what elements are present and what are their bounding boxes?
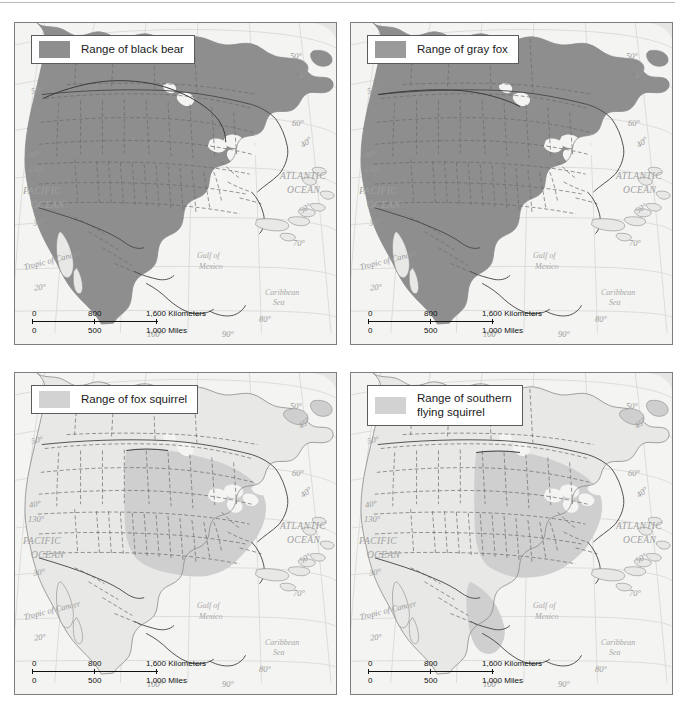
- legend-label: Range of black bear: [81, 42, 184, 56]
- scale-mi-2: 1,000 Miles: [482, 326, 523, 335]
- map-panel-gray-fox: 50°40°130°PACIFICOCEAN30°Tropic of Cance…: [350, 22, 673, 345]
- legend-southern-flying-squirrel: Range of southern flying squirrel: [367, 385, 523, 426]
- scale-bar: 08001,600 Kilometers05001,000 Miles: [368, 657, 578, 686]
- legend-gray-fox: Range of gray fox: [367, 35, 519, 64]
- scale-mi-2: 1,000 Miles: [146, 676, 187, 685]
- scale-mi-1: 500: [424, 326, 437, 335]
- map-panel-fox-squirrel: 50°40°130°PACIFICOCEAN30°Tropic of Cance…: [14, 372, 337, 695]
- scale-mi-0: 0: [368, 326, 372, 335]
- scale-km-2: 1,600 Kilometers: [146, 659, 206, 668]
- scale-bar-line: [32, 319, 158, 324]
- scale-mi-2: 1,000 Miles: [146, 326, 187, 335]
- scale-km-1: 800: [424, 309, 437, 318]
- scale-km-0: 0: [32, 309, 36, 318]
- map-panel-southern-flying-squirrel: 50°40°130°PACIFICOCEAN30°Tropic of Cance…: [350, 372, 673, 695]
- scale-bar: 08001,600 Kilometers05001,000 Miles: [32, 307, 242, 336]
- legend-fox-squirrel: Range of fox squirrel: [31, 385, 198, 414]
- scale-bar-line: [368, 669, 494, 674]
- legend-label: Range of fox squirrel: [81, 392, 187, 406]
- scale-km-2: 1,600 Kilometers: [482, 309, 542, 318]
- scale-mi-2: 1,000 Miles: [482, 676, 523, 685]
- scale-km-0: 0: [368, 659, 372, 668]
- map-panel-black-bear: 50°40°130°PACIFICOCEAN30°Tropic of Cance…: [14, 22, 337, 345]
- scale-mi-1: 500: [88, 676, 101, 685]
- scale-km-0: 0: [32, 659, 36, 668]
- scale-km-2: 1,600 Kilometers: [482, 659, 542, 668]
- scale-km-1: 800: [88, 309, 101, 318]
- legend-label: Range of gray fox: [417, 42, 508, 56]
- legend-black-bear: Range of black bear: [31, 35, 195, 64]
- scale-mi-1: 500: [88, 326, 101, 335]
- map-graphic-fox-squirrel: [15, 373, 336, 694]
- scale-bar-line: [368, 319, 494, 324]
- legend-label: Range of southern flying squirrel: [417, 391, 512, 420]
- map-panel-grid: 50°40°130°PACIFICOCEAN30°Tropic of Cance…: [0, 0, 675, 702]
- scale-km-1: 800: [424, 659, 437, 668]
- scale-bar: 08001,600 Kilometers05001,000 Miles: [32, 657, 242, 686]
- legend-swatch-icon: [39, 41, 70, 58]
- scale-km-1: 800: [88, 659, 101, 668]
- legend-swatch-icon: [375, 397, 406, 414]
- scale-mi-0: 0: [32, 326, 36, 335]
- scale-bar-line: [32, 669, 158, 674]
- scale-mi-0: 0: [32, 676, 36, 685]
- scale-km-2: 1,600 Kilometers: [146, 309, 206, 318]
- scale-mi-0: 0: [368, 676, 372, 685]
- map-graphic-black-bear: [15, 23, 336, 344]
- legend-swatch-icon: [375, 41, 406, 58]
- legend-swatch-icon: [39, 391, 70, 408]
- scale-bar: 08001,600 Kilometers05001,000 Miles: [368, 307, 578, 336]
- scale-km-0: 0: [368, 309, 372, 318]
- scale-mi-1: 500: [424, 676, 437, 685]
- map-graphic-gray-fox: [351, 23, 672, 344]
